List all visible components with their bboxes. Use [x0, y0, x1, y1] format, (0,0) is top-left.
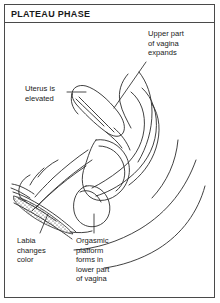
- label-orgasmic-platform: Orgasmic platform forms in lower part of…: [76, 236, 109, 284]
- figure-title-bar: PLATEAU PHASE: [4, 4, 215, 23]
- plateau-phase-figure: PLATEAU PHASE: [0, 0, 220, 303]
- page-title: PLATEAU PHASE: [5, 9, 90, 19]
- label-uterus: Uterus is elevated: [25, 84, 55, 103]
- label-upper-vagina: Upper part of vagina expands: [148, 29, 184, 58]
- label-labia: Labia changes color: [17, 236, 46, 265]
